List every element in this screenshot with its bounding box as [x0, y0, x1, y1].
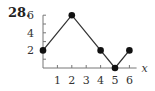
x-tick-label: 4: [97, 74, 104, 87]
y-tick-label: 4: [27, 27, 34, 40]
x-tick-label: 1: [54, 74, 61, 87]
x-tick-label: 2: [68, 74, 75, 87]
y-tick-label: 2: [27, 44, 34, 57]
data-point: [112, 65, 119, 72]
data-line: [43, 15, 129, 68]
x-tick-label: 6: [126, 74, 133, 87]
data-point: [97, 47, 104, 54]
x-tick-label: 3: [83, 74, 90, 87]
x-tick-label: 5: [112, 74, 119, 87]
y-tick-label: 6: [27, 9, 34, 22]
line-chart: 123456246x: [0, 0, 155, 91]
x-axis-label: x: [142, 62, 149, 75]
data-point: [40, 47, 47, 54]
data-point: [69, 12, 76, 19]
data-point: [126, 47, 133, 54]
